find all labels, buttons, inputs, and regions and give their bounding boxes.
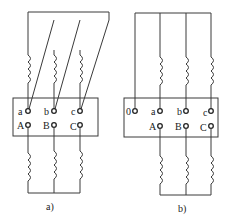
transformer-diagram: a b c A B C a) [0,0,230,220]
label-C: C [70,121,77,132]
terminal-b [184,109,189,114]
terminal-0 [133,109,138,114]
lower-coils-a [28,127,83,193]
terminal-a [158,109,163,114]
label-b: b [177,106,182,117]
terminal-c [78,109,83,114]
label-a: a [18,106,23,117]
terminal-C [209,124,214,129]
delta-wiring-a [28,12,109,109]
terminal-A [158,124,163,129]
label-a: a [151,106,156,117]
label-B: B [175,121,182,132]
terminal-B [184,124,189,129]
label-0: 0 [126,106,131,117]
terminal-b [52,109,57,114]
caption-a: a) [46,201,54,213]
upper-coils-b [160,13,214,109]
label-A: A [17,120,25,131]
label-B: B [43,120,50,131]
label-c: c [71,106,76,117]
label-A: A [149,121,157,132]
terminal-C [78,123,83,128]
terminal-c [209,109,214,114]
lower-coils-b [160,128,214,195]
panel-a: a b c A B C a) [13,12,109,213]
terminal-B [52,123,57,128]
terminal-A [26,123,31,128]
panel-b: 0 a b c A B C b) [124,13,218,215]
terminal-box-a [13,98,98,136]
label-b: b [44,106,49,117]
label-c: c [203,107,208,118]
terminal-a [26,109,31,114]
upper-coils-a [28,50,83,109]
caption-b: b) [178,203,186,215]
label-C: C [200,122,207,133]
